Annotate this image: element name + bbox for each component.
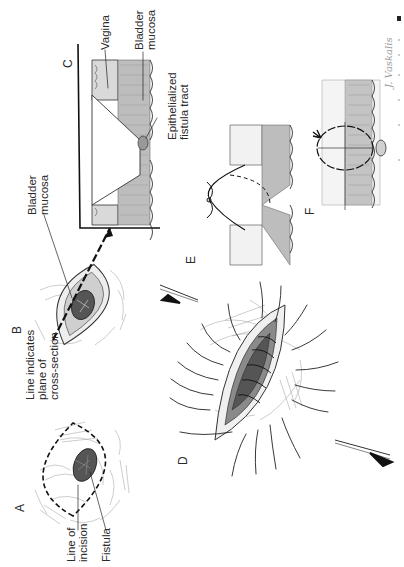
panel-c: C Vagina Bladder mucosa Epithelialized f… xyxy=(61,7,190,240)
label-bladder-mucosa-c: Bladder mucosa xyxy=(133,7,157,50)
label-bladder-mucosa-b: Bladder mucosa xyxy=(26,172,50,215)
retractor-top xyxy=(160,285,198,303)
panel-e: E xyxy=(184,125,293,265)
retractor-bottom xyxy=(335,440,392,466)
panel-c-tissue-layers xyxy=(92,60,153,240)
panel-b-letter: B xyxy=(10,326,24,334)
panel-a: A Line of incision Fistula xyxy=(13,422,129,562)
fistula-tract-epithelium xyxy=(138,136,148,150)
artist-signature: J. Vaskalis xyxy=(383,37,394,90)
panel-c-letter: C xyxy=(61,59,75,68)
label-fistula: Fistula xyxy=(100,528,112,562)
panel-f: F J. Vaskalis xyxy=(303,37,394,215)
fistula-repair-figure: A Line of incision Fistula B Line indica… xyxy=(0,0,404,567)
label-epithelialized-fistula-tract: Epithelialized fistula tract xyxy=(166,69,190,140)
panel-d: D xyxy=(160,282,392,476)
label-plane-of-cross-section: Line indicates plane of cross-section xyxy=(24,326,60,400)
label-line-of-incision: Line of incision xyxy=(65,524,89,562)
arrow-up-left-icon xyxy=(162,295,180,303)
panel-e-letter: E xyxy=(184,256,198,264)
knot-icon xyxy=(313,130,321,138)
panel-d-letter: D xyxy=(176,456,190,465)
bladder-mucosa-pointer-b xyxy=(44,215,72,298)
suture-loop-e xyxy=(208,165,245,230)
label-vagina: Vagina xyxy=(99,14,111,50)
fistula-opening xyxy=(69,445,101,484)
page-edge-marks xyxy=(397,16,401,161)
panel-f-letter: F xyxy=(303,208,317,215)
panel-a-letter: A xyxy=(13,504,27,512)
